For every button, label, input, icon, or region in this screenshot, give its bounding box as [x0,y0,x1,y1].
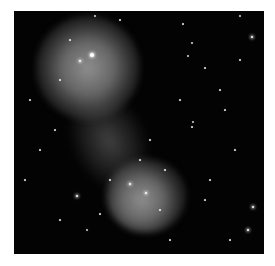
star [139,159,140,160]
star [164,169,165,170]
star [86,229,88,231]
upper-galaxy-glow [36,16,140,120]
star [94,15,96,17]
star [149,139,150,140]
star [24,179,25,180]
star [59,219,60,220]
star [179,99,180,100]
star [59,79,60,80]
star [182,23,183,24]
star [252,206,254,208]
star [159,209,160,210]
star [39,149,40,150]
star [191,42,193,44]
star [209,179,210,180]
star [99,213,100,214]
star [251,36,253,38]
star [224,109,225,110]
star [229,239,230,240]
star [76,195,78,197]
star [192,121,194,123]
star [239,59,240,60]
astronomy-image [14,11,264,254]
star [191,126,192,127]
lower-galaxy-glow [106,159,186,233]
star [69,39,70,40]
star [29,99,30,100]
star [239,15,241,17]
star [234,149,235,150]
star [247,229,249,231]
star [204,199,205,200]
star [54,129,55,130]
star [119,19,120,20]
star [169,239,170,240]
star [219,89,220,90]
star [204,67,205,68]
star [90,53,94,57]
star [109,179,110,180]
star [187,55,189,57]
